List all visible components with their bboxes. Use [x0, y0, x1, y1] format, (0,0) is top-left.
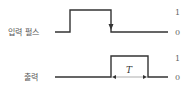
- duration-right-arrow-icon: [143, 75, 147, 79]
- output-pulse-waveform: [55, 56, 168, 77]
- duration-left-arrow-icon: [112, 75, 116, 79]
- output-label: 출력: [24, 72, 38, 82]
- input-pulse-label: 입력 펄스: [8, 27, 39, 37]
- input-pulse-group: 입력 펄스 1 0: [8, 8, 180, 37]
- output-pulse-group: 출력 T 1 0: [24, 54, 180, 82]
- pulse-timing-diagram: 입력 펄스 1 0 출력 T 1 0: [0, 0, 189, 91]
- input-level-low: 0: [175, 28, 180, 37]
- output-level-high: 1: [175, 54, 180, 63]
- output-level-low: 0: [175, 73, 180, 82]
- falling-edge-trigger-arrow-icon: [109, 24, 114, 30]
- duration-label: T: [126, 65, 133, 75]
- input-level-high: 1: [175, 8, 180, 17]
